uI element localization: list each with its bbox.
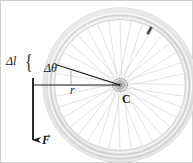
spoke (121, 29, 152, 79)
wheel-torque-figure: Δl { Δθ r C → F (0, 0, 193, 163)
spoke (124, 89, 176, 117)
vector-arrow-icon: → (42, 129, 52, 139)
spoke (126, 53, 176, 84)
arc-length-label: Δl (6, 55, 16, 67)
arc-length-brace: { (25, 51, 33, 72)
spoke (64, 53, 116, 81)
radius-line-upper (56, 65, 121, 86)
force-label: → F (42, 134, 50, 146)
angle-label: Δθ (44, 62, 57, 74)
radius-label: r (70, 84, 75, 96)
spoke (88, 91, 119, 141)
wheel-diagram-svg (0, 0, 193, 163)
spoke (88, 29, 116, 81)
center-label: C (122, 93, 131, 105)
